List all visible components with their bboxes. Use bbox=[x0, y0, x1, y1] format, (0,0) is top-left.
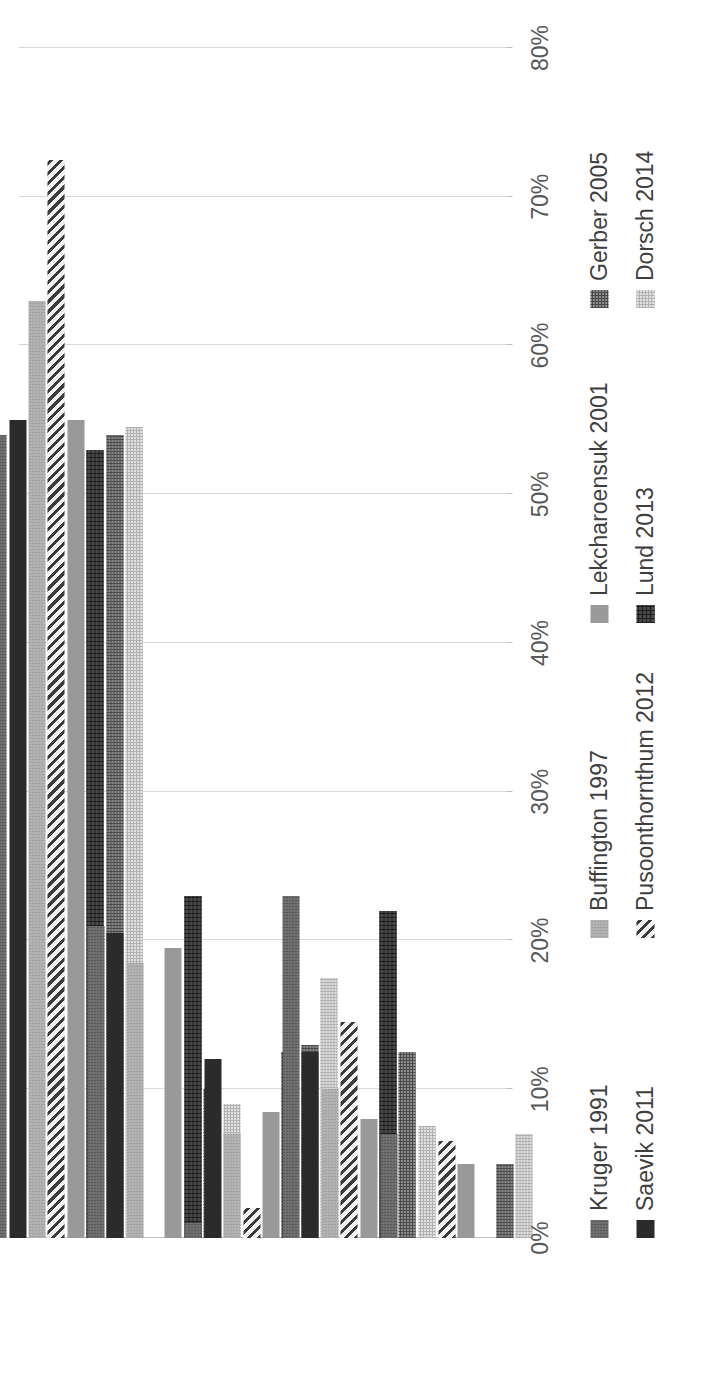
legend-item[interactable]: Dorsch 2014 bbox=[631, 151, 658, 308]
legend-item[interactable]: Kruger 1991 bbox=[585, 1084, 612, 1238]
bar-group-plug bbox=[116, 48, 214, 1238]
bar bbox=[301, 1052, 318, 1238]
bar bbox=[28, 301, 45, 1238]
bar bbox=[223, 1134, 240, 1238]
legend-label: Buffington 1997 bbox=[585, 750, 612, 911]
bar-group-other bbox=[408, 48, 506, 1238]
bar bbox=[243, 1208, 260, 1238]
legend-swatch-icon bbox=[636, 920, 654, 938]
chart-rotated-canvas: 0%10%20%30%40%50%60%70%80% FICPlugUTIUro… bbox=[0, 0, 711, 1380]
legend-swatch-icon bbox=[590, 605, 608, 623]
axis-tick bbox=[506, 196, 512, 197]
bar bbox=[9, 420, 26, 1238]
bar bbox=[438, 1141, 455, 1238]
bar bbox=[0, 435, 6, 1238]
legend-label: Lund 2013 bbox=[631, 487, 658, 596]
bar bbox=[380, 1134, 397, 1238]
bar bbox=[340, 1022, 357, 1238]
legend-swatch-icon bbox=[590, 920, 608, 938]
legend-item[interactable]: Saevik 2011 bbox=[631, 1086, 658, 1238]
legend-swatch-icon bbox=[636, 290, 654, 308]
bar bbox=[67, 420, 84, 1238]
legend-label: Kruger 1991 bbox=[585, 1084, 612, 1211]
legend-item[interactable]: Buffington 1997 bbox=[585, 750, 612, 938]
axis-tick bbox=[506, 493, 512, 494]
chart-figure: 0%10%20%30%40%50%60%70%80% FICPlugUTIUro… bbox=[0, 0, 711, 1380]
legend-label: Pusoonthornthum 2012 bbox=[631, 672, 658, 911]
legend-label: Lekcharoensuk 2001 bbox=[585, 382, 612, 596]
chart-legend: Kruger 1991Saevik 2011Buffington 1997Pus… bbox=[585, 48, 695, 1238]
legend-swatch-icon bbox=[590, 290, 608, 308]
legend-item[interactable]: Pusoonthornthum 2012 bbox=[631, 672, 658, 938]
legend-item[interactable]: Gerber 2005 bbox=[585, 152, 612, 308]
bar bbox=[184, 1223, 201, 1238]
bar-group-urolith bbox=[311, 48, 409, 1238]
axis-tick bbox=[506, 1088, 512, 1089]
value-axis-tick-label: 80% bbox=[527, 0, 554, 166]
bar bbox=[164, 948, 181, 1238]
legend-item[interactable]: Lund 2013 bbox=[631, 487, 658, 623]
bar bbox=[204, 1060, 221, 1239]
bar bbox=[87, 926, 104, 1238]
legend-swatch-icon bbox=[590, 1220, 608, 1238]
bar bbox=[106, 933, 123, 1238]
axis-tick bbox=[506, 47, 512, 48]
chart-area: 0%10%20%30%40%50%60%70%80% FICPlugUTIUro… bbox=[0, 0, 711, 1380]
legend-item[interactable]: Lekcharoensuk 2001 bbox=[585, 382, 612, 623]
bar bbox=[262, 1112, 279, 1238]
bar bbox=[321, 1089, 338, 1238]
plot-area bbox=[18, 48, 506, 1238]
bar bbox=[47, 160, 64, 1238]
legend-swatch-icon bbox=[636, 605, 654, 623]
axis-tick bbox=[506, 791, 512, 792]
legend-label: Dorsch 2014 bbox=[631, 151, 658, 281]
bar bbox=[184, 896, 201, 1238]
legend-label: Gerber 2005 bbox=[585, 152, 612, 281]
legend-label: Saevik 2011 bbox=[631, 1086, 658, 1211]
axis-tick bbox=[506, 345, 512, 346]
bar bbox=[282, 896, 299, 1238]
bar bbox=[457, 1164, 474, 1238]
axis-tick bbox=[506, 940, 512, 941]
axis-tick bbox=[506, 642, 512, 643]
bar bbox=[126, 963, 143, 1238]
legend-swatch-icon bbox=[636, 1220, 654, 1238]
bar bbox=[496, 1164, 513, 1238]
bar bbox=[360, 1119, 377, 1238]
